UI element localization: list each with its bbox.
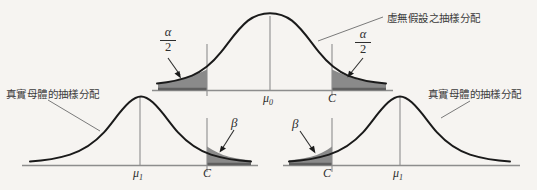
arrowhead-beta-left (220, 146, 227, 153)
mu-alt-subscript-left: 1 (139, 173, 143, 182)
true-population-curve-right-group (283, 96, 520, 172)
null-distribution-label: 虛無假設之抽樣分配 (387, 10, 481, 25)
arrowhead-alpha-left (175, 71, 182, 79)
alpha-denominator-left: 2 (160, 41, 176, 54)
leader-beta-left (222, 130, 234, 149)
critical-value-label-right: C (323, 166, 331, 181)
leader-beta-right (300, 131, 313, 150)
statistics-distribution-figure: 虛無假設之抽樣分配 真實母體的抽樣分配 真實母體的抽樣分配 α 2 α 2 β … (0, 0, 537, 190)
leader-true-distribution-right (441, 101, 470, 118)
mu-alt-subscript-right: 1 (399, 173, 403, 182)
leader-true-distribution-left (48, 100, 100, 131)
leader-null-distribution (318, 17, 383, 41)
beta-label-right-curve: β (292, 116, 298, 132)
mu-null-subscript: 0 (269, 98, 273, 107)
alpha-numerator-right: α (355, 28, 371, 41)
true-distribution-label-left: 真實母體的抽樣分配 (6, 86, 100, 101)
true-distribution-label-right: 真實母體的抽樣分配 (428, 86, 522, 101)
annotation-leaders-group (48, 17, 470, 154)
mu-null-axis-label: μ0 (263, 91, 273, 107)
alpha-denominator-right: 2 (355, 43, 371, 56)
mu-alt-axis-label-left: μ1 (133, 166, 143, 182)
arrowhead-beta-right (309, 146, 316, 154)
alpha-over-two-right: α 2 (355, 28, 371, 56)
critical-value-label-top: C (328, 91, 336, 106)
true-population-curve-left-group (22, 96, 258, 172)
beta-label-left-curve: β (231, 115, 237, 131)
mu-alt-axis-label-right: μ1 (393, 166, 403, 182)
leader-alpha-right (350, 58, 363, 74)
alpha-numerator-left: α (160, 26, 176, 39)
critical-value-label-left: C (203, 166, 211, 181)
alpha-over-two-left: α 2 (160, 26, 176, 54)
